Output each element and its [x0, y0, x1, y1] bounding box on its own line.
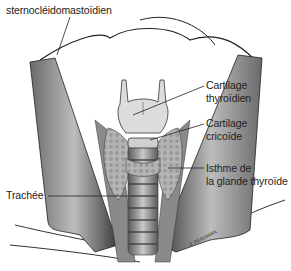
label-thyroid-isthmus: Isthme de la glande thyroïde: [206, 162, 288, 188]
cricoid-cartilage: [128, 138, 158, 148]
label-sternocleidomastoid: sternocléidomastoïdien: [6, 4, 112, 17]
label-line: Cartilage: [206, 117, 247, 130]
label-line: thyroïdien: [206, 92, 251, 105]
label-thyroid-cartilage: Cartilage thyroïdien: [206, 79, 251, 105]
label-line: la glande thyroïde: [206, 175, 288, 188]
anatomy-figure: sternocléidomastoïdien Cartilage thyroïd…: [0, 0, 291, 271]
label-line: cricoïde: [206, 130, 247, 143]
thyroid-anatomy-illustration: [0, 0, 291, 271]
label-line: Isthme de: [206, 162, 288, 175]
jaw-outline: [40, 28, 255, 60]
label-line: Cartilage: [206, 79, 251, 92]
label-cricoid-cartilage: Cartilage cricoïde: [206, 117, 247, 143]
label-trachea: Trachée: [6, 189, 43, 202]
